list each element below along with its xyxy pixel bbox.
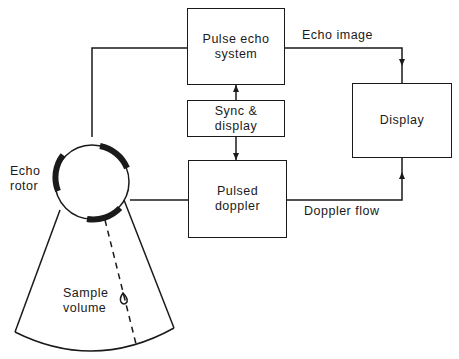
pulse-echo-label-2: system [203,47,270,62]
sample-label-1: Sample [63,286,108,301]
display-block: Display [352,83,452,158]
pulsed-doppler-label-1: Pulsed [215,184,260,199]
pulsed-doppler-label-2: doppler [215,199,260,214]
echo-image-label: Echo image [302,28,373,43]
sync-display-block: Sync & display [187,100,285,137]
doppler-flow-label: Doppler flow [304,204,379,219]
sample-label-2: volume [63,301,108,316]
pulsed-doppler-block: Pulsed doppler [188,160,287,238]
echo-rotor-label: Echo rotor [10,164,41,194]
pulse-echo-block: Pulse echo system [187,8,285,85]
sample-volume-label: Sample volume [63,286,108,316]
sync-label-1: Sync & [215,104,258,119]
display-label: Display [380,113,425,128]
sync-label-2: display [215,119,258,134]
rotor-label-2: rotor [10,179,41,194]
pulse-echo-label-1: Pulse echo [203,32,270,47]
rotor-label-1: Echo [10,164,41,179]
